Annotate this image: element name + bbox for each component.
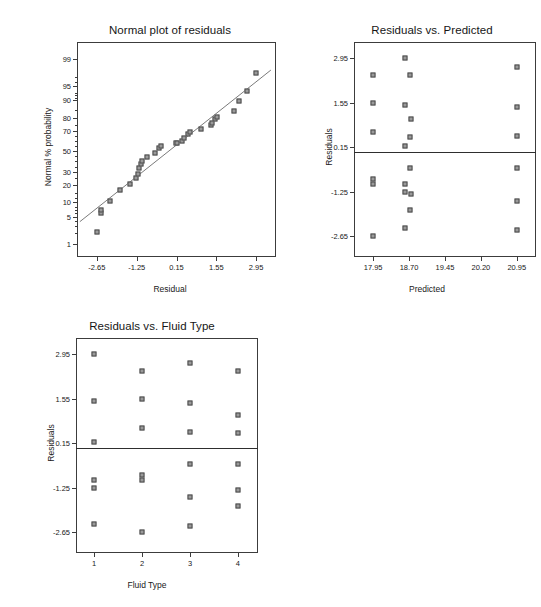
data-point — [409, 117, 414, 122]
x-tick-label: 3 — [188, 559, 192, 568]
y-tick-label: -1.25 — [44, 483, 70, 492]
data-point — [140, 530, 145, 535]
data-point — [403, 225, 408, 230]
data-point — [371, 234, 376, 239]
data-point — [140, 369, 145, 374]
y-tickmark — [73, 244, 77, 245]
y-tick-label: 1.55 — [44, 394, 70, 403]
y-tick-label: 1.55 — [322, 98, 348, 107]
data-point — [92, 439, 97, 444]
y-tick-label: 30 — [45, 168, 71, 177]
y-tick-label: 2.95 — [44, 349, 70, 358]
data-point — [199, 126, 204, 131]
data-point — [403, 182, 408, 187]
y-minor-tickmark — [75, 193, 78, 194]
data-point — [187, 523, 192, 528]
x-tickmark — [94, 553, 95, 557]
data-point — [235, 369, 240, 374]
x-tick-label: 0.15 — [169, 263, 184, 272]
y-minor-tickmark — [75, 210, 78, 211]
y-tick-label: 90 — [45, 96, 71, 105]
x-tick-label: 1 — [92, 559, 96, 568]
data-point — [409, 191, 414, 196]
y-tickmark — [350, 103, 354, 104]
y-tickmark — [73, 185, 77, 186]
y-minor-tickmark — [75, 141, 78, 142]
data-point — [235, 413, 240, 418]
y-minor-tickmark — [75, 226, 78, 227]
y-tickmark — [73, 217, 77, 218]
x-tickmark — [216, 257, 217, 261]
data-point — [92, 521, 97, 526]
y-tickmark — [72, 399, 76, 400]
y-tick-label: 0.15 — [44, 439, 70, 448]
plot-area-normal — [77, 42, 276, 257]
x-tickmark — [256, 257, 257, 261]
y-minor-tickmark — [75, 198, 78, 199]
data-point — [232, 108, 237, 113]
data-point — [403, 55, 408, 60]
y-minor-tickmark — [75, 93, 78, 94]
data-point — [159, 143, 164, 148]
zero-reference-line — [76, 448, 258, 449]
chart-title-normal-plot: Normal plot of residuals — [50, 24, 290, 36]
x-tick-label: 19.45 — [436, 263, 455, 272]
y-minor-tickmark — [75, 125, 78, 126]
data-point — [235, 462, 240, 467]
data-point — [136, 166, 141, 171]
y-minor-tickmark — [75, 156, 78, 157]
data-point — [187, 461, 192, 466]
y-tick-label: 10 — [45, 198, 71, 207]
y-tick-label: 50 — [45, 147, 71, 156]
data-point — [371, 100, 376, 105]
y-tickmark — [350, 147, 354, 148]
x-tickmark — [177, 257, 178, 261]
y-minor-tickmark — [75, 110, 78, 111]
y-minor-tickmark — [75, 98, 78, 99]
y-tick-label: 80 — [45, 113, 71, 122]
data-point — [403, 102, 408, 107]
x-tickmark — [190, 553, 191, 557]
x-tick-label: 18.70 — [400, 263, 419, 272]
data-point — [144, 155, 149, 160]
y-tickmark — [72, 354, 76, 355]
y-tickmark — [73, 86, 77, 87]
data-point — [235, 430, 240, 435]
y-tick-label: 2.95 — [322, 53, 348, 62]
data-point — [235, 503, 240, 508]
x-tickmark — [137, 257, 138, 261]
x-tick-label: 17.95 — [364, 263, 383, 272]
y-tick-label: 5 — [45, 212, 71, 221]
y-tick-label: 95 — [45, 81, 71, 90]
y-minor-tickmark — [75, 95, 78, 96]
chart-title-residuals-predicted: Residuals vs. Predicted — [342, 24, 522, 36]
x-tick-label: 2.95 — [249, 263, 264, 272]
data-point — [235, 487, 240, 492]
x-tickmark — [409, 257, 410, 261]
y-tickmark — [73, 118, 77, 119]
y-tickmark — [73, 202, 77, 203]
data-point — [514, 104, 519, 109]
data-point — [187, 130, 192, 135]
data-point — [514, 199, 519, 204]
y-minor-tickmark — [75, 82, 78, 83]
data-point — [254, 71, 259, 76]
data-point — [136, 172, 141, 177]
data-point — [140, 396, 145, 401]
y-tickmark — [73, 59, 77, 60]
x-axis-title-normal: Residual — [30, 284, 310, 294]
y-minor-tickmark — [75, 207, 78, 208]
y-tick-label: -2.65 — [44, 528, 70, 537]
data-point — [408, 73, 413, 78]
y-minor-tickmark — [75, 213, 78, 214]
data-point — [92, 485, 97, 490]
data-point — [128, 181, 133, 186]
data-point — [514, 227, 519, 232]
y-tick-label: 70 — [45, 126, 71, 135]
x-tick-label: -1.25 — [128, 263, 145, 272]
y-tick-label: -2.65 — [322, 232, 348, 241]
data-point — [408, 134, 413, 139]
y-minor-tickmark — [75, 178, 78, 179]
data-point — [99, 208, 104, 213]
plot-area-residuals-predicted — [354, 42, 536, 257]
